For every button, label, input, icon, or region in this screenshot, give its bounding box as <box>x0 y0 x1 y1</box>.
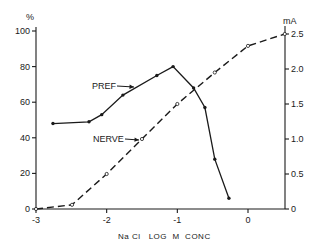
series-nerve <box>34 32 286 210</box>
series-pref <box>51 65 230 200</box>
x-tick-label: -3 <box>32 215 40 225</box>
data-point <box>105 172 108 175</box>
x-tick-label: -1 <box>173 215 181 225</box>
ticks: 02040608010000.51.01.52.02.5-3-2-10 <box>15 26 304 225</box>
data-point <box>176 102 179 105</box>
y-left-tick-label: 100 <box>15 26 30 36</box>
nerve-annotation: NERVE <box>93 134 124 144</box>
data-point <box>227 197 230 200</box>
data-point <box>192 86 195 89</box>
data-point <box>121 93 124 96</box>
data-point <box>87 120 90 123</box>
data-point <box>246 44 249 47</box>
data-point <box>140 137 143 140</box>
y-left-tick-label: 20 <box>20 168 30 178</box>
y-left-tick-label: 60 <box>20 97 30 107</box>
data-point <box>213 71 216 74</box>
series <box>34 32 286 210</box>
chart: 02040608010000.51.01.52.02.5-3-2-10 % mA… <box>0 0 320 251</box>
data-point <box>100 113 103 116</box>
data-point <box>171 65 174 68</box>
data-point <box>213 157 216 160</box>
y-right-tick-label: 0 <box>291 204 296 214</box>
x-tick-label: -2 <box>103 215 111 225</box>
y-right-tick-label: 2.0 <box>291 64 304 74</box>
data-point <box>283 32 286 35</box>
pref-annotation: PREF <box>92 81 117 91</box>
data-point <box>155 74 158 77</box>
x-tick-label: 0 <box>245 215 250 225</box>
x-axis-title: Na Cl LOG M CONC <box>118 232 211 241</box>
y-right-tick-label: 1.5 <box>291 99 304 109</box>
y-right-unit: mA <box>283 16 297 26</box>
y-left-tick-label: 80 <box>20 62 30 72</box>
y-left-tick-label: 40 <box>20 133 30 143</box>
pref-arrow-icon <box>117 85 134 89</box>
axes <box>36 26 285 209</box>
y-left-unit: % <box>26 12 34 22</box>
data-point <box>51 122 54 125</box>
y-right-tick-label: 2.5 <box>291 29 304 39</box>
nerve-arrow-icon <box>125 138 139 142</box>
data-point <box>70 203 73 206</box>
y-right-tick-label: 0.5 <box>291 169 304 179</box>
data-point <box>203 106 206 109</box>
data-point <box>34 207 37 210</box>
y-right-tick-label: 1.0 <box>291 134 304 144</box>
y-left-tick-label: 0 <box>25 204 30 214</box>
